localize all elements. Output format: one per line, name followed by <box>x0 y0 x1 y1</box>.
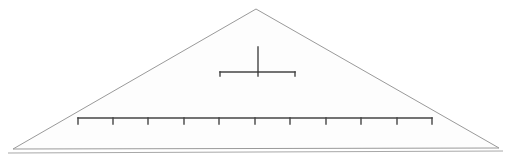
base-line <box>8 151 503 153</box>
hierarchy-canvas <box>0 0 510 160</box>
hierarchy-diagram <box>0 0 510 160</box>
pyramid-triangle-fill <box>13 9 499 149</box>
